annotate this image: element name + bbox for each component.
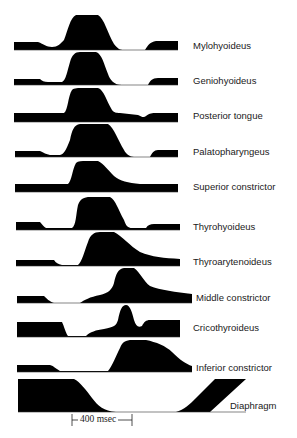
trace-middle-constrictor: [17, 268, 192, 303]
trace-superior-constrictor: [15, 161, 178, 192]
scale-bar-label: 400 msec: [78, 415, 118, 425]
trace-posterior-tongue: [14, 88, 178, 122]
muscle-label: Mylohyoideus: [193, 41, 251, 51]
trace-thyrohyoideus: [16, 197, 180, 230]
muscle-label: Thyroarytenoideus: [193, 257, 272, 267]
muscle-label: Inferior constrictor: [196, 363, 272, 373]
trace-diaphragm: [18, 379, 246, 412]
muscle-label: Geniohyoideus: [193, 76, 256, 86]
muscle-label: Middle constrictor: [196, 293, 270, 303]
trace-palatopharyngeus: [15, 124, 178, 157]
muscle-label: Cricothyroideus: [193, 323, 259, 333]
trace-cricothyroideus: [17, 305, 180, 337]
muscle-label: Diaphragm: [230, 401, 276, 411]
trace-inferior-constrictor: [17, 340, 192, 372]
muscle-label: Posterior tongue: [193, 111, 263, 121]
muscle-label: Palatopharyngeus: [193, 147, 270, 157]
muscle-label: Superior constrictor: [193, 182, 275, 192]
trace-geniohyoideus: [14, 52, 178, 85]
trace-mylohyoideus: [14, 15, 178, 50]
muscle-label: Thyrohyoideus: [193, 222, 255, 232]
trace-thyroarytenoideus: [16, 232, 180, 266]
